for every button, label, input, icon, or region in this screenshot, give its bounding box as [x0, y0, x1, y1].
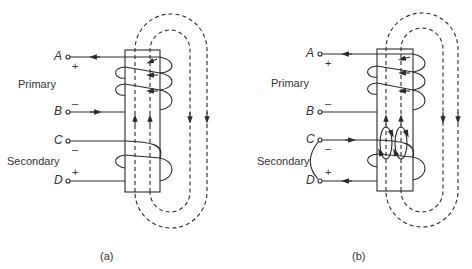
terminal-b-label: B — [306, 104, 314, 118]
primary-label: Primary — [18, 78, 56, 90]
terminal-b-label: B — [54, 104, 62, 118]
terminal-a-sign: + — [325, 57, 331, 69]
core — [125, 50, 160, 192]
figure-a — [66, 14, 207, 228]
core — [377, 49, 413, 191]
transformer-diagram — [0, 0, 472, 269]
primary-label: Primary — [271, 77, 309, 89]
figure-a-caption: (a) — [100, 250, 113, 262]
inner-flux-path — [401, 28, 443, 212]
terminal-a-sign: + — [72, 60, 78, 72]
secondary-label: Secondary — [257, 155, 310, 167]
terminal-c-label: C — [54, 133, 63, 147]
terminal-d-sign: + — [325, 166, 331, 178]
terminal-a-label: A — [306, 46, 314, 60]
outer-flux-path — [386, 13, 458, 227]
terminal-c-label: C — [306, 132, 315, 146]
terminal-d-label: D — [306, 173, 315, 187]
terminal-c-sign: – — [325, 142, 331, 154]
terminal-d-label: D — [54, 173, 63, 187]
figure-b-caption: (b) — [352, 250, 365, 262]
terminal-b-sign: – — [72, 97, 78, 109]
terminal-d-sign: + — [72, 166, 78, 178]
terminal-b-sign: – — [325, 97, 331, 109]
figure-b — [311, 13, 459, 227]
outer-flux-path — [135, 14, 207, 228]
secondary-label: Secondary — [7, 155, 60, 167]
terminal-a-label: A — [54, 49, 62, 63]
terminal-c-sign: – — [72, 143, 78, 155]
